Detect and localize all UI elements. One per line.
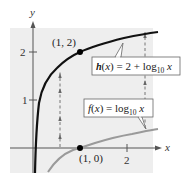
point-label-1-2: (1, 2)	[52, 36, 76, 49]
y-tick-label-1: 1	[22, 94, 28, 106]
y-tick-label-2: 2	[20, 46, 26, 58]
log-transformation-chart: x y 2 1 2 (1, 2) (1, 0) h	[0, 0, 192, 181]
point-label-1-0: (1, 0)	[79, 152, 103, 165]
x-tick-label-2: 2	[124, 154, 130, 166]
y-axis-label: y	[29, 6, 35, 18]
x-axis-arrow-icon	[155, 146, 162, 151]
x-axis-label: x	[164, 141, 170, 153]
point-1-0	[77, 145, 83, 151]
y-axis-arrow-icon	[31, 21, 36, 28]
point-1-2	[77, 49, 83, 55]
